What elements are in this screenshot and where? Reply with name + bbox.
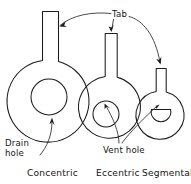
callout-tab-label: Tab (111, 9, 127, 19)
vent-hole-segmental (151, 110, 171, 122)
callout-vent-hole-label: Vent hole (103, 145, 145, 155)
plate-segmental (136, 69, 184, 140)
arrowhead-tab-concentric (60, 21, 68, 27)
caption-concentric: Concentric (27, 168, 78, 178)
leader-tab-concentric (60, 13, 111, 26)
plate-concentric-outline (7, 12, 89, 143)
caption-eccentric: Eccentric (96, 168, 140, 178)
plate-eccentric (78, 34, 140, 139)
callout-drain-hole-line1: Drain (5, 138, 29, 148)
orifice-plate-diagram-canvas: Tab Drain hole Vent hole (0, 0, 191, 184)
arrowhead-tab-eccentric (109, 25, 114, 32)
plate-concentric (7, 12, 89, 143)
caption-segmental: Segmental (142, 168, 191, 178)
drain-hole-concentric (31, 79, 67, 115)
leader-drain-hole (40, 122, 52, 155)
plate-eccentric-outline (78, 34, 140, 139)
callout-drain-hole-line2: hole (5, 148, 24, 158)
orifice-plate-diagram: Tab Drain hole Vent hole (0, 0, 191, 184)
plate-segmental-outline (136, 69, 184, 140)
callout-tab: Tab (60, 9, 162, 65)
leader-tab-segmental (129, 17, 160, 63)
